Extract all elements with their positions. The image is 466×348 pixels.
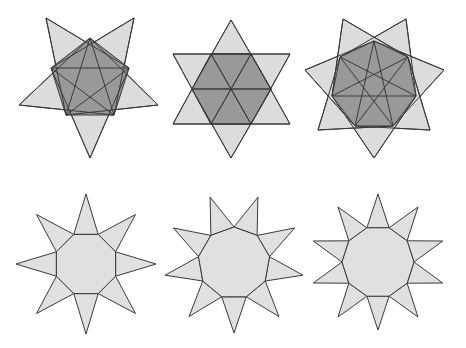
center-polygon bbox=[199, 227, 270, 297]
heptagram-star bbox=[305, 19, 444, 158]
star-point-triangle bbox=[74, 194, 98, 234]
center-polygon bbox=[342, 228, 414, 296]
hexagram-star bbox=[173, 20, 290, 158]
star-point-triangle bbox=[367, 194, 389, 228]
star-point-triangle bbox=[222, 297, 247, 333]
star-point-triangle bbox=[165, 257, 203, 281]
star-point-triangle bbox=[265, 257, 303, 281]
center-polygon bbox=[56, 234, 115, 293]
octagon-star bbox=[16, 194, 156, 334]
star-point-triangle bbox=[74, 294, 98, 334]
nonagon-star bbox=[165, 197, 303, 333]
star-point-triangle bbox=[116, 252, 156, 276]
decagon-star bbox=[313, 194, 442, 330]
pentagram-star bbox=[19, 18, 158, 158]
star-point-triangle bbox=[367, 296, 389, 330]
star-diagram bbox=[0, 0, 466, 348]
star-point-triangle bbox=[16, 252, 56, 276]
